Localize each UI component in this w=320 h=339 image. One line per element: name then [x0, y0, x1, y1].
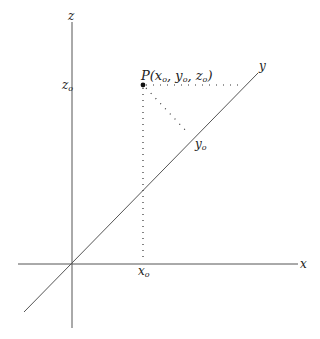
y-axis-label: y — [258, 59, 266, 73]
projection-to-y — [146, 88, 188, 133]
x0-label: xo — [138, 264, 150, 279]
z-axis-label: z — [67, 9, 75, 23]
point-p — [141, 83, 146, 88]
coordinate-diagram: z y x P(xo, yo, zo) zo yo xo — [0, 0, 320, 339]
y0-label: yo — [194, 137, 207, 152]
z0-label: zo — [61, 78, 73, 93]
point-label: P(xo, yo, zo) — [140, 68, 212, 84]
x-axis-label: x — [300, 257, 307, 271]
